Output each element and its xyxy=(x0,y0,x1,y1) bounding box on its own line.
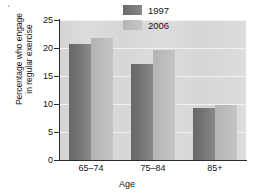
bar-2006-85+ xyxy=(215,105,237,160)
y-axis-tick-mark xyxy=(54,20,60,21)
bar-1997-75-84 xyxy=(131,64,153,160)
legend-swatch-1997 xyxy=(123,5,142,15)
y-axis-tick-label: 0 xyxy=(48,156,53,165)
y-axis-tick-label: 20 xyxy=(43,44,53,53)
x-axis-title: Age xyxy=(0,179,254,189)
y-axis-line xyxy=(59,19,60,161)
legend-label-2006: 2006 xyxy=(148,19,169,32)
y-axis-tick-label: 5 xyxy=(48,128,53,137)
legend-swatch-2006 xyxy=(123,20,142,30)
y-axis-tick-label: 15 xyxy=(43,72,53,81)
bar-2006-65-74 xyxy=(91,38,113,160)
y-axis-tick-mark xyxy=(54,160,60,161)
y-axis-tick-mark xyxy=(54,76,60,77)
bar-2006-75-84 xyxy=(153,50,175,160)
y-axis-tick-label: 10 xyxy=(43,100,53,109)
plot-area xyxy=(60,20,246,160)
x-axis-tick-label: 85+ xyxy=(207,164,222,173)
bar-chart-figure: Percentage who engage in regular exercis… xyxy=(0,0,254,195)
y-axis-tick-mark xyxy=(54,48,60,49)
scan-artifact-speck xyxy=(8,5,10,7)
bar-1997-65-74 xyxy=(69,44,91,160)
y-axis-title-line1: Percentage who engage xyxy=(14,0,24,129)
y-axis-tick-mark xyxy=(54,132,60,133)
y-axis-tick-labels: 0510152025 xyxy=(30,18,53,163)
x-axis-tick-label: 65–74 xyxy=(78,164,103,173)
y-axis-tick-mark xyxy=(54,104,60,105)
x-axis-tick-label: 75–84 xyxy=(140,164,165,173)
legend: 1997 2006 xyxy=(123,4,183,34)
bar-1997-85+ xyxy=(193,108,215,160)
legend-label-1997: 1997 xyxy=(148,4,169,17)
legend-item-2006: 2006 xyxy=(123,19,183,32)
legend-item-1997: 1997 xyxy=(123,4,183,17)
y-axis-tick-label: 25 xyxy=(43,16,53,25)
x-axis-line xyxy=(59,160,247,161)
